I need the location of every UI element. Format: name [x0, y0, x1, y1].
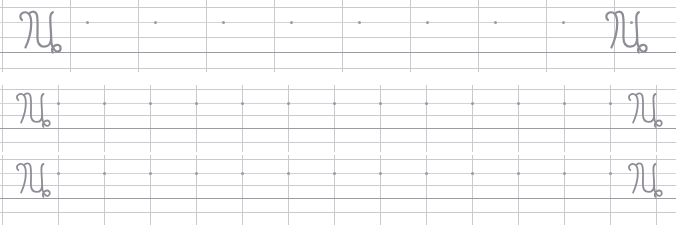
ruling-line-ascender-line	[0, 89, 676, 90]
stroke-start-dot	[241, 172, 244, 175]
cursive-u-icon	[600, 8, 652, 56]
cursive-u-icon	[12, 159, 54, 201]
ruling-line-baseline	[0, 128, 676, 129]
ruling-line-x-height-line	[0, 185, 676, 186]
stroke-start-dot	[494, 21, 497, 24]
stroke-start-dot	[471, 102, 474, 105]
stroke-start-dot	[630, 21, 633, 24]
column-guide-line	[104, 155, 105, 225]
column-guide-line	[472, 155, 473, 225]
ruling-line-baseline	[0, 52, 676, 53]
ruling-line-descender-line	[0, 142, 676, 143]
stroke-start-dot	[333, 102, 336, 105]
stroke-start-dot	[149, 172, 152, 175]
model-letter-glyph-start	[12, 89, 54, 131]
column-guide-line	[518, 155, 519, 225]
stroke-start-dot	[103, 102, 106, 105]
model-letter-glyph-end	[624, 89, 666, 131]
column-guide-line	[196, 155, 197, 225]
cursive-u-icon	[624, 159, 666, 201]
stroke-start-dot	[609, 102, 612, 105]
column-guide-line	[334, 155, 335, 225]
ruling-line-ascender-line	[0, 7, 676, 8]
stroke-start-dot	[425, 172, 428, 175]
stroke-start-dot	[103, 172, 106, 175]
stroke-start-dot	[57, 172, 60, 175]
stroke-start-dot	[379, 172, 382, 175]
cursive-u-icon	[12, 89, 54, 131]
stroke-start-dot	[287, 172, 290, 175]
stroke-start-dot	[358, 21, 361, 24]
ruling-line-midline	[0, 173, 676, 174]
stroke-start-dot	[609, 172, 612, 175]
column-guide-line	[274, 0, 275, 72]
ruling-line-descender-line	[0, 68, 676, 69]
stroke-start-dot	[425, 102, 428, 105]
column-guide-line	[610, 155, 611, 225]
model-letter-glyph-start	[12, 159, 54, 201]
column-guide-line	[206, 0, 207, 72]
column-guide-line	[2, 0, 3, 72]
column-guide-line	[2, 155, 3, 225]
column-guide-line	[410, 0, 411, 72]
stroke-start-dot	[287, 102, 290, 105]
column-guide-line	[614, 0, 615, 72]
ruling-line-baseline	[0, 198, 676, 199]
column-guide-line	[288, 155, 289, 225]
handwriting-worksheet	[0, 0, 676, 228]
ruling-line-midline	[0, 103, 676, 104]
stroke-start-dot	[195, 172, 198, 175]
stroke-start-dot	[86, 21, 89, 24]
model-letter-glyph-end	[600, 8, 652, 56]
practice-row-large[interactable]	[0, 0, 676, 72]
column-guide-line	[564, 155, 565, 225]
column-guide-line	[150, 155, 151, 225]
stroke-start-dot	[57, 102, 60, 105]
stroke-start-dot	[426, 21, 429, 24]
stroke-start-dot	[563, 172, 566, 175]
stroke-start-dot	[290, 21, 293, 24]
cursive-u-icon	[14, 8, 66, 56]
cursive-u-icon	[624, 89, 666, 131]
column-guide-line	[426, 155, 427, 225]
model-letter-glyph-start	[14, 8, 66, 56]
column-guide-line	[380, 155, 381, 225]
column-guide-line	[138, 0, 139, 72]
stroke-start-dot	[333, 172, 336, 175]
stroke-start-dot	[562, 21, 565, 24]
column-guide-line	[478, 0, 479, 72]
column-guide-line	[656, 155, 657, 225]
stroke-start-dot	[222, 21, 225, 24]
stroke-start-dot	[517, 172, 520, 175]
ruling-line-x-height-line	[0, 37, 676, 38]
practice-row-medium-a[interactable]	[0, 85, 676, 152]
column-guide-line	[342, 0, 343, 72]
column-guide-line	[58, 155, 59, 225]
practice-row-medium-b[interactable]	[0, 155, 676, 225]
stroke-start-dot	[149, 102, 152, 105]
column-guide-line	[70, 0, 71, 72]
ruling-line-midline	[0, 22, 676, 23]
ruling-line-x-height-line	[0, 115, 676, 116]
stroke-start-dot	[154, 21, 157, 24]
column-guide-line	[546, 0, 547, 72]
stroke-start-dot	[563, 102, 566, 105]
ruling-line-descender-line	[0, 212, 676, 213]
stroke-start-dot	[379, 102, 382, 105]
column-guide-line	[242, 155, 243, 225]
model-letter-glyph-end	[624, 159, 666, 201]
stroke-start-dot	[517, 102, 520, 105]
stroke-start-dot	[241, 102, 244, 105]
stroke-start-dot	[195, 102, 198, 105]
stroke-start-dot	[471, 172, 474, 175]
ruling-line-ascender-line	[0, 159, 676, 160]
